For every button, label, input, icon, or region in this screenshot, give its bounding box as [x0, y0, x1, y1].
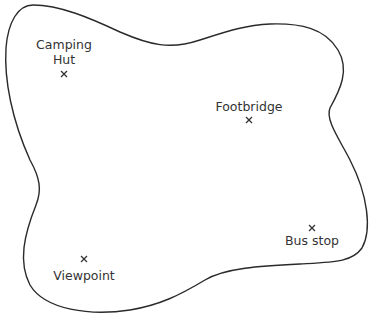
x-marker-icon	[309, 225, 315, 231]
x-marker-icon	[61, 71, 67, 77]
location-label: Bus stop	[285, 233, 339, 248]
location-label: Footbridge	[215, 99, 282, 114]
location-label: Hut	[53, 52, 75, 67]
location-viewpoint: Viewpoint	[53, 256, 115, 283]
x-marker-icon	[246, 117, 252, 123]
location-footbridge: Footbridge	[215, 99, 282, 123]
location-bus-stop: Bus stop	[285, 225, 339, 248]
location-label: Viewpoint	[53, 268, 115, 283]
location-label: Camping	[36, 37, 92, 52]
location-camping-hut: Camping Hut	[36, 37, 92, 77]
x-marker-icon	[81, 256, 87, 262]
island-map: Camping Hut Footbridge Viewpoint Bus sto…	[0, 0, 372, 320]
